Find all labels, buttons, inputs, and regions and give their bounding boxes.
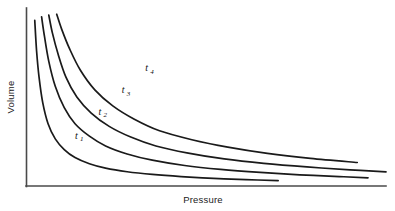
curve-label-t1-subscript: 1	[80, 135, 84, 143]
curve-label-t3-subscript: 3	[126, 90, 131, 98]
isotherm-curve-t4	[57, 14, 358, 162]
x-axis-title: Pressure	[183, 194, 223, 205]
curve-label-t2-subscript: 2	[103, 111, 107, 119]
curve-label-t1: t	[75, 130, 78, 141]
isotherm-curves	[35, 14, 386, 180]
isotherm-curve-t2	[42, 17, 368, 178]
curve-label-t2: t	[98, 106, 101, 117]
curve-label-t1-group: t 1	[75, 130, 84, 144]
chart-canvas: t 4 t 3 t 2 t 1 Volume Pressure	[0, 0, 395, 211]
curve-label-t4-group: t 4	[145, 62, 154, 76]
curve-label-t3: t	[122, 84, 125, 95]
curve-label-t4-subscript: 4	[150, 68, 154, 76]
isotherm-curve-t1	[35, 20, 278, 180]
curve-label-t3-group: t 3	[122, 84, 131, 98]
pressure-volume-isotherm-figure: t 4 t 3 t 2 t 1 Volume Pressure	[0, 0, 395, 211]
curve-label-t4: t	[145, 62, 148, 73]
curve-label-t2-group: t 2	[98, 106, 107, 120]
curve-labels: t 4 t 3 t 2 t 1	[75, 62, 154, 143]
y-axis-title: Volume	[5, 81, 16, 114]
